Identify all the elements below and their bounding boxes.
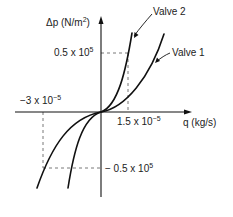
y-axis-arrow-icon	[99, 16, 104, 24]
y-tick-neg-label: − 0.5 x 105	[105, 162, 153, 174]
x-tick-pos-label: 1.5 x 10−5	[117, 115, 161, 127]
x-axis-arrow-icon	[184, 110, 192, 115]
y-tick-pos-label: 0.5 x 105	[54, 46, 94, 58]
valve-2-pointer	[134, 14, 152, 36]
valve-characteristic-diagram: Δp (N/m2) Valve 2 Valve 1 0.5 x 105 −3 x…	[0, 0, 233, 217]
valve-2-label: Valve 2	[153, 6, 186, 17]
x-tick-neg-label: −3 x 10−5	[20, 94, 61, 106]
y-axis-label: Δp (N/m2)	[46, 16, 90, 28]
x-axis-label: q (kg/s)	[183, 117, 216, 128]
valve-1-arrowhead-icon	[155, 58, 160, 64]
valve-1-label: Valve 1	[172, 47, 205, 58]
reference-lines	[43, 53, 128, 168]
